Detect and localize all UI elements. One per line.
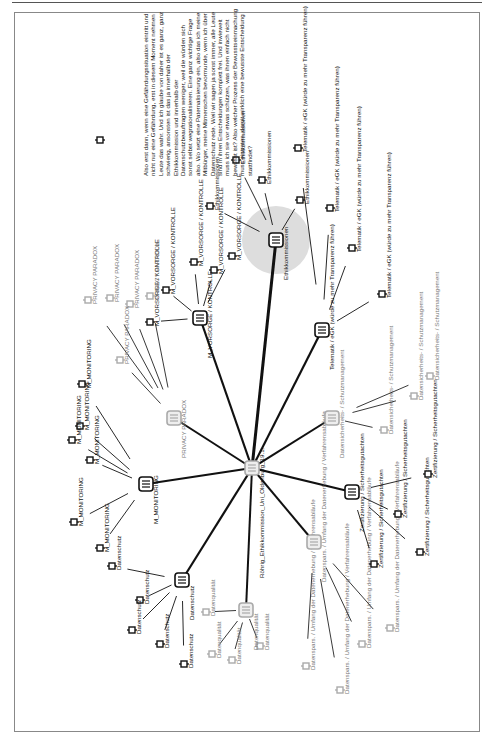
mind-map-diagram: EthikkommissionenEthikkommissionenEthikk… [0,0,494,746]
leaf-label: Datenschutz [187,634,194,668]
edge-datenschutz [182,468,252,580]
leaf-label: M_VORSORGE / KONTROLLE [235,173,242,260]
leaf-label: PRIVACY PARADOX [153,242,160,300]
leaf-edge [345,421,373,427]
leaf-edge [183,601,184,646]
leaf-label: M_VORSORGE / KONTROLLE [197,179,204,266]
leaf-label: Datenschutz [163,614,170,648]
quote-line: nicht nur eine Gefährdung, erst in diese… [149,14,156,176]
quote-node-icon[interactable] [95,137,105,143]
leaf-label: Telematik / eGK (würde zu mehr Transpare… [385,152,392,298]
quote-line: schwierig, ansonsten ist das ja innerhal… [164,54,171,176]
leaf-label: M_MONITORING [77,477,84,526]
leaf-label: M_MONITORING [83,381,90,430]
leaf-label: M_MONITORING [75,395,82,444]
leaf-label: Zertifizierung / Sicherheitsgutachten [377,469,384,568]
cluster-node-monitoring[interactable] [139,477,153,491]
cluster-node-datenqualitaet[interactable] [239,603,253,617]
cluster-label-datenschutz: Datenschutz [188,586,195,620]
leaf-label: Datenqualität [263,613,270,650]
cluster-node-zertifizierung[interactable] [345,485,359,499]
leaf-label: Datensicherheits- / Schutzmanagement [417,291,424,400]
leaf-edge [321,579,335,657]
leaf-edge [155,323,168,388]
leaf-label: M_MONITORING [103,503,110,552]
leaf-label: M_VORSORGE / KONTROLLE [169,207,176,294]
quote-line: sind in ihren Entscheidungen komplett fr… [216,19,223,176]
leaf-edge [96,406,130,459]
leaf-edge [215,611,236,612]
quote-line: stattfindet? [246,145,253,176]
cluster-node-datensicherheit[interactable] [325,411,339,425]
cluster-node-ethik[interactable] [269,233,283,247]
leaf-label: PRIVACY PARADOX [133,250,140,308]
quote-line: Datenschutzbeauftragten weniger, weil di… [179,24,186,176]
edge-monitoring [146,468,252,484]
quote-line: Leute das wahr. Und ich glaube von daher… [157,12,164,176]
leaf-label: Telematik / eGK (würde zu mehr Transpare… [355,106,362,252]
center-label: Röhrig_Ethikkommission_Uni_Oldenburg_19.… [258,447,265,578]
quote-line: muss eintreten, damit wirklich eine bewu… [238,14,245,176]
quote-line: sonst selbst wegrationalisieren. Eine ga… [186,18,193,176]
leaf-label: Datensicherheits- / Schutzmanagement [433,271,440,380]
leaf-label: PRIVACY PARADOX [91,246,98,304]
leaf-label: Datenqualität [209,579,216,616]
leaf-edge [195,274,198,304]
cluster-label-datensparsamkeit: Datenspars. / Umfang der Datenerhebung /… [320,411,327,582]
edge-ethik [252,240,276,468]
center-node[interactable] [245,461,259,475]
cluster-node-telematik[interactable] [315,323,329,337]
cluster-label-telematik: Telematik / eGK (würde zu mehr Transpare… [328,224,335,370]
leaf-label: Datenspars. / Umfang der Datenerhebung /… [343,523,350,694]
quote-line: also. Wo setzt eine Paternalisierung ein… [194,12,201,176]
leaf-label: Datenqualität [235,627,242,664]
edge-datenqualitaet [246,468,252,610]
quote-line: Mitbürger, meine Mitmenschen bevormunde,… [201,13,208,176]
cluster-node-vorsorge[interactable] [193,311,207,325]
leaf-label: Datenspars. / Umfang der Datenerhebung /… [309,499,316,670]
cluster-label-datenqualitaet: Datenqualität [252,613,259,650]
leaf-label: Datenschutz [143,570,150,604]
leaf-label: Telematik / eGK (würde zu mehr Transpare… [333,66,340,212]
leaf-edge [337,302,369,321]
cluster-label-datensicherheit: Datensicherheits- / Schutzmanagement [338,349,345,458]
leaf-label: M_VORSORGE / KONTROLLE [217,187,224,274]
leaf-label: PRIVACY PARADOX [113,244,120,302]
cluster-label-ethik: Ethikkommissionen [282,226,289,280]
quote-line: bewusst ist? Also welcher Prozess der Be… [231,8,238,176]
quote-line: Also erst dann, wenn eine Gefährdungssit… [142,13,149,176]
leaf-label: M_MONITORING [93,415,100,464]
quote-line: muss ich sie vor etwas schützen, was ihn… [223,19,230,176]
edge-zertifizierung [252,468,352,492]
cluster-label-zertifizierung: Zertifizierung / Sicherheitsgutachten [358,433,365,532]
cluster-node-datenschutz[interactable] [175,573,189,587]
leaf-edge [173,296,191,311]
leaf-label: Datenspars. / Umfang der Datenerhebung /… [393,461,400,632]
leaf-label: Telematik / eGK (würde zu mehr Transpare… [301,6,308,152]
quote-line: Ethikkommission und innerhalb der [172,80,179,176]
leaf-label: M_MONITORING [85,339,92,388]
cluster-label-vorsorge: M_VORSORGE / KONTROLLE [206,271,213,358]
leaf-label: Zertifizierung / Sicherheitsgutachten [431,379,438,478]
quote-line: Datenschutz rede. Weil wir sagen ja sons… [209,12,216,176]
leaf-label: Datenschutz [115,536,122,570]
leaf-label: Datenschutz [135,600,142,634]
leaf-label: PRIVACY PARADOX [123,306,130,364]
leaf-edge [161,319,188,321]
cluster-label-privacy: PRIVACY PARADOX [180,400,187,458]
leaf-label: Datensicherheits- / Schutzmanagement [387,325,394,434]
cluster-node-privacy[interactable] [167,411,181,425]
leaf-label: Datenqualität [215,621,222,658]
leaf-label: Zertifizierung / Sicherheitsgutachten [401,419,408,518]
cluster-label-monitoring: M_MONITORING [152,475,159,524]
leaf-edge [110,500,134,534]
leaf-label: Ethikkommissionen [265,130,272,184]
leaf-edge [132,373,161,404]
cluster-node-datensparsamkeit[interactable] [307,535,321,549]
